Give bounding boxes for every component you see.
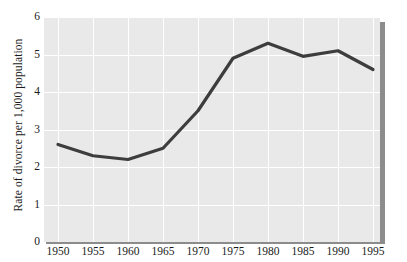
y-tick-label: 2 [26,161,40,173]
divorce-rate-line-chart: Rate of divorce per 1,000 population 012… [0,0,407,262]
x-axis-tick-labels: 1950195519601965197019751980198519901995 [44,246,384,262]
y-tick-label: 5 [26,49,40,61]
x-tick-label: 1995 [351,246,395,258]
data-series-line [44,17,380,242]
y-axis-tick-labels: 0123456 [22,0,40,262]
y-tick-label: 4 [26,86,40,98]
y-tick-label: 3 [26,124,40,136]
plot-area [44,17,380,242]
y-tick-label: 6 [26,11,40,23]
y-tick-label: 1 [26,199,40,211]
